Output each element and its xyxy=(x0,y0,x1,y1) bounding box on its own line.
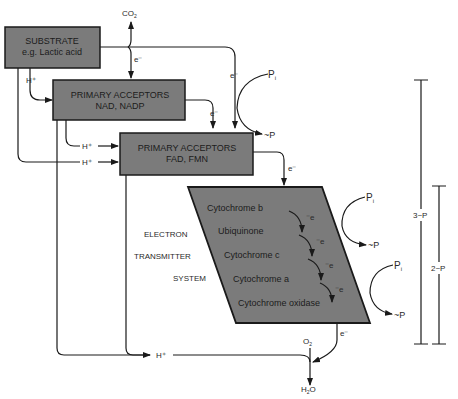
pi-label-1: Pi xyxy=(268,69,276,81)
cytochrome-a: Cytochrome a xyxy=(233,274,289,284)
fad-subtitle: FAD, FMN xyxy=(166,154,208,164)
bracket-3p-label: 3~P xyxy=(413,211,427,220)
system-label-electron: ELECTRON xyxy=(144,230,188,239)
h-fad-down xyxy=(126,175,150,355)
e-label-nad: e⁻ xyxy=(210,109,218,118)
e-label-oxidase: e⁻ xyxy=(340,329,348,338)
atp-label-3: ~P xyxy=(394,310,405,320)
o2-label: O2 xyxy=(303,337,312,347)
substrate-title: SUBSTRATE xyxy=(25,36,78,46)
respiratory-chain-diagram: SUBSTRATE e.g. Lactic acid PRIMARY ACCEP… xyxy=(0,0,458,399)
ubiquinone: Ubiquinone xyxy=(218,226,264,236)
co2-arrow xyxy=(128,22,131,47)
h-to-water-line xyxy=(173,355,310,385)
h-label-nad: H⁺ xyxy=(82,142,92,151)
system-label-transmitter: TRANSMITTER xyxy=(134,252,191,261)
pi-label-2: Pi xyxy=(366,192,374,204)
atp-label-1: ~P xyxy=(264,130,275,140)
substrate-example: e.g. Lactic acid xyxy=(22,47,82,57)
e-label-substrate: e⁻ xyxy=(134,55,142,64)
cytochrome-oxidase: Cytochrome oxidase xyxy=(238,298,320,308)
h-label-substrate-2: H⁺ xyxy=(82,158,92,167)
e-to-nad-arrow xyxy=(128,47,131,78)
pi-curve-1 xyxy=(237,74,268,134)
primary-acceptors-nad-box xyxy=(53,80,185,120)
co2-label: CO2 xyxy=(122,9,137,19)
cytochrome-c: Cytochrome c xyxy=(224,250,280,260)
atp-label-2: ~P xyxy=(368,240,379,250)
nad-title: PRIMARY ACCEPTORS xyxy=(71,90,170,100)
fad-title: PRIMARY ACCEPTORS xyxy=(138,143,237,153)
h-label-substrate: H⁺ xyxy=(26,76,36,85)
chain-e-1: ⁻e xyxy=(306,213,315,222)
system-label-system: SYSTEM xyxy=(173,274,206,283)
pi-curve-2 xyxy=(342,197,366,245)
pi-curve-3 xyxy=(370,265,393,314)
fad-e-to-cyt xyxy=(253,152,284,185)
e-label-long: e⁻ xyxy=(230,71,238,80)
nad-subtitle: NAD, NADP xyxy=(95,101,144,111)
chain-e-3: ⁻e xyxy=(325,261,334,270)
h-label-water: H⁺ xyxy=(156,351,166,360)
chain-e-2: ⁻e xyxy=(316,237,325,246)
chain-e-4: ⁻e xyxy=(335,285,344,294)
h-nad-to-fad xyxy=(66,120,80,146)
pi-label-3: Pi xyxy=(394,260,402,272)
cytochrome-b: Cytochrome b xyxy=(207,203,263,213)
nad-e-to-fad xyxy=(185,100,213,128)
e-label-fad: e⁻ xyxy=(288,164,296,173)
h2o-label: H2O xyxy=(301,385,316,395)
bracket-2p-label: 2~P xyxy=(431,264,445,273)
